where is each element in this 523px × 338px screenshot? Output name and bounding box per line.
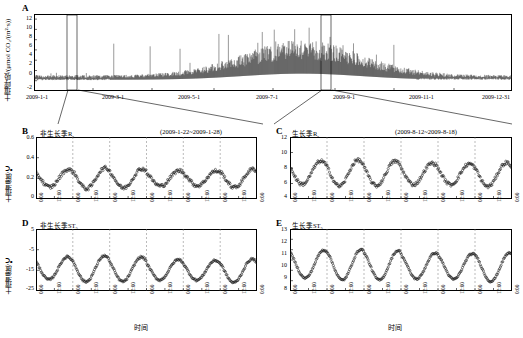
- xtick-label: 0:00: [149, 193, 155, 202]
- xtick-label: 0:00: [403, 285, 409, 294]
- panel-c-title-text: 生长季R: [292, 130, 317, 137]
- xtick-label: 0:00: [222, 193, 228, 202]
- xtick-label: 12:00: [241, 190, 247, 202]
- xtick-label: 12:00: [130, 282, 136, 294]
- xtick-label: 0:00: [440, 193, 446, 202]
- panel-e-ytick: 9: [272, 274, 287, 280]
- xtick-label: 12:00: [496, 282, 502, 294]
- xtick-label: 0:00: [112, 193, 118, 202]
- panel-b-ylabel: 土壤温度/℃: [4, 140, 14, 202]
- panel-e-ytick: 10: [272, 262, 287, 268]
- xtick-label: 0:00: [185, 193, 191, 202]
- xtick-label: 12:00: [348, 190, 354, 202]
- xtick-label: 0:00: [222, 285, 228, 294]
- xtick-label: 0:00: [477, 285, 483, 294]
- panel-d-ytick: -15: [14, 266, 34, 272]
- panel-d-title-text: 非生长季ST: [40, 222, 76, 229]
- panel-e-series: [290, 229, 512, 291]
- panel-e-ytick: 8: [272, 285, 287, 291]
- panel-e-title-text: 生长季ST: [292, 222, 321, 229]
- panel-b-series: [36, 137, 257, 199]
- xtick-label: 0:00: [259, 193, 265, 202]
- panel-d-xlabel: 时间: [134, 322, 148, 332]
- xtick-label: 12:00: [496, 190, 502, 202]
- panel-c-series: [290, 137, 512, 199]
- xtick-label: 12:00: [385, 190, 391, 202]
- xtick-label: 0:00: [477, 193, 483, 202]
- panel-e-ytick: 11: [272, 250, 287, 256]
- xtick-label: 0:00: [185, 285, 191, 294]
- xtick-label: 12:00: [241, 282, 247, 294]
- panel-c-ytick: 8: [272, 164, 287, 170]
- panel-c-ytick: 4: [272, 193, 287, 199]
- xtick-label: 0:00: [366, 285, 372, 294]
- xtick-label: 12:00: [167, 282, 173, 294]
- xtick-label: 0:00: [514, 193, 520, 202]
- xtick-label: 12:00: [422, 282, 428, 294]
- xtick-label: 12:00: [56, 190, 62, 202]
- panel-c-ytick: 12: [272, 134, 287, 140]
- panel-b-ytick: 0: [14, 193, 34, 199]
- panel-c-annotation: (2009-8-12~2009-8-18): [395, 128, 457, 135]
- xtick-label: 0:00: [38, 193, 44, 202]
- xtick-label: 0:00: [403, 193, 409, 202]
- panel-b-ytick: 0.4: [14, 154, 34, 160]
- panel-d-ylabel: 土壤温度/℃: [4, 232, 14, 294]
- xtick-label: 12:00: [93, 282, 99, 294]
- xtick-label: 0:00: [149, 285, 155, 294]
- xtick-label: 12:00: [459, 282, 465, 294]
- xtick-label: 12:00: [93, 190, 99, 202]
- xtick-label: 0:00: [292, 193, 298, 202]
- xtick-label: 12:00: [459, 190, 465, 202]
- panel-e-ytick: 12: [272, 238, 287, 244]
- xtick-label: 12:00: [311, 282, 317, 294]
- panel-b-ytick: 0.6: [14, 134, 34, 140]
- xtick-label: 12:00: [56, 282, 62, 294]
- xtick-label: 12:00: [422, 190, 428, 202]
- xtick-label: 0:00: [329, 285, 335, 294]
- xtick-label: 0:00: [112, 285, 118, 294]
- xtick-label: 12:00: [385, 282, 391, 294]
- xtick-label: 0:00: [366, 193, 372, 202]
- panel-d-ytick: -25: [14, 285, 34, 291]
- panel-c-ytick: 6: [272, 179, 287, 185]
- xtick-label: 12:00: [348, 282, 354, 294]
- panel-d-series: [36, 229, 257, 291]
- xtick-label: 12:00: [130, 190, 136, 202]
- panel-b-title-text: 非生长季R: [40, 130, 72, 137]
- xtick-label: 0:00: [38, 285, 44, 294]
- panel-d-ytick: 5: [14, 226, 34, 232]
- panel-e-xlabel: 时间: [388, 322, 402, 332]
- panel-e-ytick: 13: [272, 226, 287, 232]
- panel-c-ytick: 10: [272, 149, 287, 155]
- panel-b-annotation: (2009-1-22~2009-1-28): [160, 128, 222, 135]
- xtick-label: 12:00: [311, 190, 317, 202]
- panel-b-ytick: 0.2: [14, 174, 34, 180]
- xtick-label: 12:00: [204, 282, 210, 294]
- xtick-label: 0:00: [259, 285, 265, 294]
- xtick-label: 0:00: [329, 193, 335, 202]
- xtick-label: 12:00: [204, 190, 210, 202]
- xtick-label: 0:00: [292, 285, 298, 294]
- xtick-label: 12:00: [167, 190, 173, 202]
- xtick-label: 0:00: [514, 285, 520, 294]
- xtick-label: 0:00: [75, 193, 81, 202]
- panel-d-ytick: -5: [14, 246, 34, 252]
- xtick-label: 0:00: [75, 285, 81, 294]
- xtick-label: 0:00: [440, 285, 446, 294]
